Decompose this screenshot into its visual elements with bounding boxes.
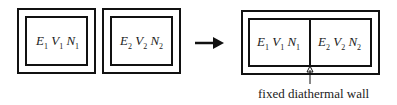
- combined-system-2-label: E2 V2 N2: [318, 34, 361, 52]
- wall-caption: fixed diathermal wall: [258, 86, 369, 102]
- diathermal-wall: [309, 18, 311, 67]
- right-arrow-icon: [195, 37, 224, 49]
- combined-system-1-label: E1 V1 N1: [257, 34, 300, 52]
